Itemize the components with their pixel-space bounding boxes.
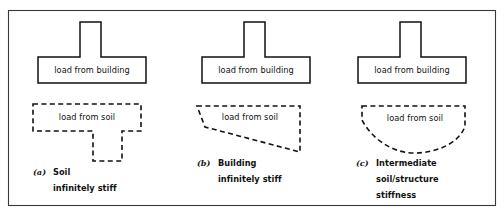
panel-c-caption-line1: Intermediate <box>376 158 437 168</box>
panel-a-building-label: load from building <box>54 65 129 75</box>
panel-b-soil-label: load from soil <box>222 112 278 122</box>
panel-c-caption-line3: stiffness <box>376 190 416 200</box>
panel-a-caption-line1: Soil <box>53 167 70 177</box>
panel-a-caption-index: (a) <box>33 167 46 177</box>
panel-c: load from building load from soil (c) In… <box>356 22 466 200</box>
panel-c-soil-label: load from soil <box>387 113 443 123</box>
panel-b: load from building load from soil (b) Bu… <box>197 22 310 184</box>
panel-b-building-label: load from building <box>218 65 293 75</box>
figure-container: load from building load from soil (a) So… <box>0 0 504 217</box>
panel-c-building-label: load from building <box>374 65 449 75</box>
panel-b-caption-index: (b) <box>197 158 211 168</box>
panel-a-caption-line2: infinitely stiff <box>53 183 117 193</box>
panel-c-caption-index: (c) <box>356 158 369 168</box>
panel-c-caption-line2: soil/structure <box>376 174 439 184</box>
panel-b-caption-line1: Building <box>218 158 257 168</box>
panel-a: load from building load from soil (a) So… <box>33 22 146 193</box>
panel-a-soil-label: load from soil <box>59 112 115 122</box>
panel-b-caption-line2: infinitely stiff <box>218 174 282 184</box>
